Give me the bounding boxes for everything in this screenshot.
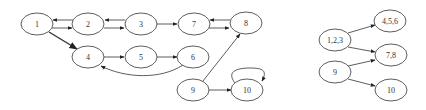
node-6: 6 <box>177 46 209 68</box>
node-9-right: 9 <box>319 61 351 83</box>
node-7: 7 <box>178 13 210 35</box>
node-5: 5 <box>125 46 157 68</box>
svg-text:7: 7 <box>192 20 196 29</box>
svg-text:1: 1 <box>35 20 39 29</box>
svg-text:4,5,6: 4,5,6 <box>382 17 398 26</box>
svg-text:9: 9 <box>191 86 195 95</box>
node-10-right: 10 <box>375 79 407 101</box>
edge-9-to-78 <box>348 60 375 66</box>
edge-123-to-78 <box>348 47 375 52</box>
svg-text:5: 5 <box>139 53 143 62</box>
node-10: 10 <box>231 79 263 101</box>
svg-text:10: 10 <box>387 86 395 95</box>
left-graph-nodes: 1 2 3 7 8 4 5 6 9 10 <box>21 12 263 101</box>
node-7-8: 7,8 <box>375 44 407 66</box>
svg-text:6: 6 <box>191 53 195 62</box>
graph-diagram: 1 2 3 7 8 4 5 6 9 10 1,2,3 4,5,6 7,8 9 1… <box>0 0 426 110</box>
edge-123-to-456 <box>348 25 375 33</box>
svg-text:9: 9 <box>333 68 337 77</box>
svg-text:4: 4 <box>86 53 90 62</box>
edge-1-to-4 <box>49 32 77 49</box>
svg-text:1,2,3: 1,2,3 <box>327 36 343 45</box>
svg-text:2: 2 <box>86 20 90 29</box>
node-2: 2 <box>72 13 104 35</box>
svg-text:3: 3 <box>139 20 143 29</box>
node-4: 4 <box>72 46 104 68</box>
svg-text:8: 8 <box>244 19 248 28</box>
node-9: 9 <box>177 79 209 101</box>
edge-9-to-10 <box>348 79 375 86</box>
node-3: 3 <box>125 13 157 35</box>
svg-text:10: 10 <box>243 86 251 95</box>
right-graph-nodes: 1,2,3 4,5,6 7,8 9 10 <box>319 10 407 101</box>
right-graph-edges <box>348 25 375 86</box>
node-1-2-3: 1,2,3 <box>319 29 351 51</box>
node-4-5-6: 4,5,6 <box>374 10 406 32</box>
node-1: 1 <box>21 13 53 35</box>
node-8: 8 <box>230 12 262 34</box>
svg-text:7,8: 7,8 <box>386 51 396 60</box>
